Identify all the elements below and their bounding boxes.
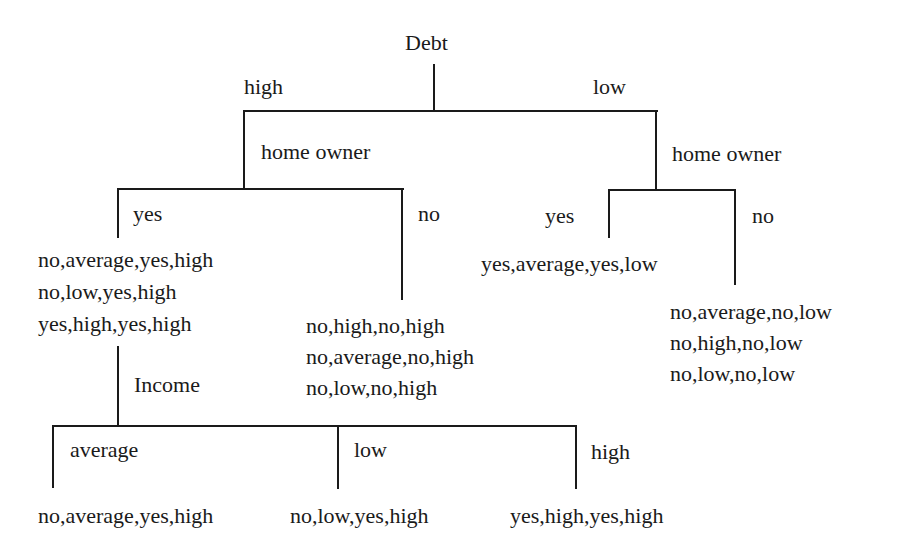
node-home-owner-left: home owner (261, 137, 370, 167)
edge-label-right-yes: yes (545, 201, 574, 231)
income-low-branch (337, 425, 339, 489)
home-owner-right-crossbar (608, 189, 736, 191)
leaf-right-no-example-1: no,average,no,low (670, 296, 832, 327)
leaf-left-yes-example-1: no,average,yes,high (38, 244, 213, 275)
home-owner-right-no-branch (734, 189, 736, 285)
edge-label-income-high: high (591, 437, 630, 467)
root-node-debt: Debt (405, 28, 448, 58)
leaf-right-no-example-3: no,low,no,low (670, 358, 795, 389)
leaf-right-yes-example-1: yes,average,yes,low (481, 248, 658, 279)
leaf-right-no-example-2: no,high,no,low (670, 327, 803, 358)
edge-label-left-no: no (418, 199, 440, 229)
edge-label-left-yes: yes (133, 199, 162, 229)
leaf-income-low: no,low,yes,high (290, 500, 429, 531)
home-owner-right-yes-branch (608, 189, 610, 238)
home-owner-left-yes-branch (117, 188, 119, 238)
root-stem (433, 64, 435, 112)
leaf-income-high: yes,high,yes,high (510, 500, 663, 531)
edge-label-income-average: average (70, 435, 138, 465)
root-crossbar (244, 110, 658, 112)
edge-label-right-no: no (752, 201, 774, 231)
decision-tree: Debt high low home owner yes no no,avera… (0, 0, 906, 553)
home-owner-left-no-branch (401, 188, 403, 300)
debt-low-branch (655, 110, 657, 191)
income-high-branch (575, 425, 577, 489)
debt-high-branch (243, 110, 245, 190)
node-income: Income (134, 370, 200, 400)
edge-label-debt-high: high (244, 72, 283, 102)
leaf-income-average: no,average,yes,high (38, 500, 213, 531)
node-home-owner-right: home owner (672, 139, 781, 169)
leaf-left-yes-example-3: yes,high,yes,high (38, 308, 191, 339)
leaf-left-yes-example-2: no,low,yes,high (38, 276, 177, 307)
leaf-left-no-example-2: no,average,no,high (306, 341, 474, 372)
income-crossbar (52, 425, 577, 427)
income-average-branch (52, 425, 54, 488)
edge-label-income-low: low (354, 435, 387, 465)
leaf-left-no-example-3: no,low,no,high (306, 372, 437, 403)
leaf-left-no-example-1: no,high,no,high (306, 310, 445, 341)
home-owner-left-crossbar (117, 188, 404, 190)
income-stem (117, 346, 119, 427)
edge-label-debt-low: low (593, 72, 626, 102)
